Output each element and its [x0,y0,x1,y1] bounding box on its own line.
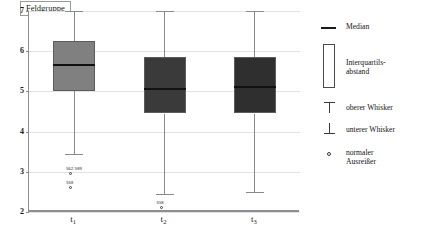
iqr-box-icon [318,44,344,90]
outlier-label: 558 [157,201,164,206]
legend-label-upper-whisker: oberer Whisker [344,100,393,112]
plot-area: 765432562 589558558 [28,11,299,212]
legend-label-lower-whisker: unterer Whisker [344,122,395,134]
iqr-box [234,57,276,113]
legend-label-median: Median [344,22,369,31]
xtick-label-t2: t2 [161,214,167,225]
ytick-label: 7 [20,7,24,15]
ytick-mark [26,212,29,213]
iqr-box [53,41,95,91]
median-line-icon [318,22,344,34]
legend-label-iqr: Interquartils- abstand [344,44,386,76]
ytick-mark [26,132,29,133]
median-line [53,64,95,66]
upper-whisker-line [74,11,75,41]
xtick-label-t3: t3 [251,214,257,225]
ytick-label: 4 [20,128,24,136]
upper-whisker-cap [246,11,264,12]
upper-whisker-icon [318,100,344,114]
upper-whisker-line [164,11,165,57]
ytick-mark [26,172,29,173]
ytick-mark [26,91,29,92]
lower-whisker-cap [156,194,174,195]
lower-whisker-line [254,114,255,192]
legend-item-outlier: normaler Ausreißer [318,148,376,166]
lower-whisker-line [164,114,165,194]
upper-whisker-line [254,11,255,57]
ytick-label: 6 [20,47,24,55]
median-line [144,88,186,90]
outlier-label: 562 589 [66,167,82,172]
legend-item-lower-whisker: unterer Whisker [318,122,395,136]
outlier-point [69,172,72,175]
boxplot-2: 558 [144,11,186,210]
outlier-point [69,186,72,189]
legend-label-outlier: normaler Ausreißer [344,148,376,166]
legend-item-iqr: Interquartils- abstand [318,44,386,90]
lower-whisker-icon [318,122,344,136]
xtick-label-t1: t1 [70,214,76,225]
ytick-label: 2 [20,208,24,216]
outlier-point [160,206,163,209]
legend-item-median: Median [318,22,369,34]
median-line [234,86,276,88]
ytick-label: 3 [20,168,24,176]
boxplot-figure: Feldgruppe 765432562 589558558 t1 t2 t3 … [0,0,426,242]
ytick-mark [26,11,29,12]
lower-whisker-cap [65,154,83,155]
upper-whisker-cap [156,11,174,12]
outlier-circle-icon [318,148,344,164]
lower-whisker-line [74,91,75,153]
boxplot-3 [234,11,276,210]
boxplot-1: 562 589558 [53,11,95,210]
iqr-box [144,57,186,113]
lower-whisker-cap [246,192,264,193]
upper-whisker-cap [65,11,83,12]
ytick-mark [26,51,29,52]
ytick-label: 5 [20,87,24,95]
legend-item-upper-whisker: oberer Whisker [318,100,393,114]
gridline [29,212,300,213]
outlier-label: 558 [66,181,73,186]
